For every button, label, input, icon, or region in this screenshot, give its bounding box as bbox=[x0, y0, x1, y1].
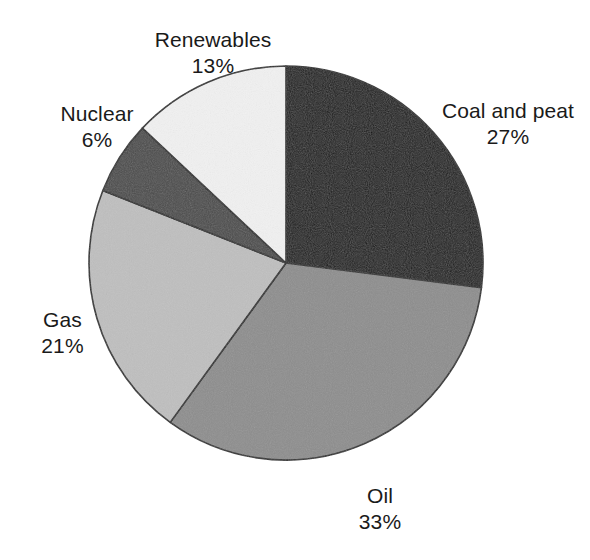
pie-chart-canvas bbox=[0, 0, 590, 560]
pie-label-nuclear: Nuclear 6% bbox=[22, 101, 172, 152]
pie-label-coal-and-peat-value: 27% bbox=[418, 124, 590, 150]
pie-label-renewables-value: 13% bbox=[128, 53, 298, 79]
pie-chart-figure: Renewables 13% Coal and peat 27% Nuclear… bbox=[0, 0, 590, 560]
pie-label-gas-name: Gas bbox=[0, 307, 125, 333]
pie-label-coal-and-peat: Coal and peat 27% bbox=[418, 98, 590, 149]
pie-label-gas-value: 21% bbox=[0, 333, 125, 359]
pie-label-renewables: Renewables 13% bbox=[128, 27, 298, 78]
pie-label-coal-and-peat-name: Coal and peat bbox=[418, 98, 590, 124]
pie-label-nuclear-name: Nuclear bbox=[22, 101, 172, 127]
pie-label-oil-name: Oil bbox=[315, 483, 445, 509]
pie-label-gas: Gas 21% bbox=[0, 307, 125, 358]
pie-label-nuclear-value: 6% bbox=[22, 127, 172, 153]
pie-label-oil-value: 33% bbox=[315, 509, 445, 535]
pie-label-oil: Oil 33% bbox=[315, 483, 445, 534]
pie-label-renewables-name: Renewables bbox=[128, 27, 298, 53]
